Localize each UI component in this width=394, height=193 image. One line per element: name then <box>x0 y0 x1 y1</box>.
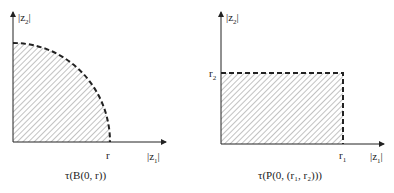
r1-label: r1 <box>339 149 347 164</box>
diagram-canvas: |z2| |z1| r τ(B(0, r)) |z2| |z1| r1 r2 τ… <box>0 0 394 193</box>
y-axis-label: |z2| <box>18 11 31 26</box>
rectangle-region <box>221 73 343 144</box>
r2-label: r2 <box>209 67 217 82</box>
y-axis-label: |z2| <box>226 11 239 26</box>
quarter-disk-region <box>13 43 110 142</box>
x-axis-label: |z1| <box>147 150 160 165</box>
polydisc-diagram: |z2| |z1| r1 r2 τ(P(0, (r₁, r₂))) <box>209 11 384 182</box>
caption-ball: τ(B(0, r)) <box>65 169 106 182</box>
caption-polydisc: τ(P(0, (r₁, r₂))) <box>258 169 322 182</box>
ball-diagram: |z2| |z1| r τ(B(0, r)) <box>13 11 166 182</box>
radius-label: r <box>106 149 110 161</box>
x-axis-label: |z1| <box>370 150 383 165</box>
